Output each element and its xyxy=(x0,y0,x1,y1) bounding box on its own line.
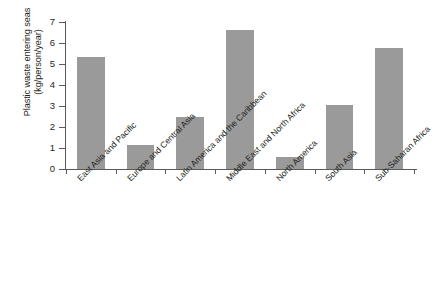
x-axis-tick xyxy=(315,169,316,174)
y-axis-tick-label: 4 xyxy=(50,79,55,90)
y-axis-title: Plastic waste entering seas (kg/person/y… xyxy=(16,0,50,142)
y-axis-tick-label: 2 xyxy=(50,121,55,132)
x-axis-tick xyxy=(66,169,67,174)
x-axis-tick xyxy=(116,169,117,174)
y-axis-tick-label: 1 xyxy=(50,142,55,153)
y-axis-tick: 5 xyxy=(59,64,65,65)
y-axis-tick-label: 5 xyxy=(50,58,55,69)
x-axis-tick xyxy=(414,169,415,174)
y-axis-tick: 6 xyxy=(59,43,65,44)
x-axis-tick xyxy=(364,169,365,174)
x-axis-tick xyxy=(215,169,216,174)
y-axis-tick: 7 xyxy=(59,22,65,23)
y-axis-tick: 0 xyxy=(59,169,65,170)
y-axis-tick-label: 7 xyxy=(50,16,55,27)
y-axis-tick: 1 xyxy=(59,148,65,149)
y-axis-tick: 2 xyxy=(59,127,65,128)
y-axis-tick-label: 0 xyxy=(50,163,55,174)
x-axis-tick xyxy=(265,169,266,174)
y-axis-tick-label: 3 xyxy=(50,100,55,111)
bar-chart: Plastic waste entering seas (kg/person/y… xyxy=(0,0,434,300)
x-axis-tick xyxy=(165,169,166,174)
y-axis-tick-label: 6 xyxy=(50,37,55,48)
y-axis-title-line-1: Plastic waste entering seas xyxy=(22,8,33,117)
y-axis-title-line-2: (kg/person/year) xyxy=(33,29,44,94)
y-axis-tick: 4 xyxy=(59,85,65,86)
y-axis-tick: 3 xyxy=(59,106,65,107)
